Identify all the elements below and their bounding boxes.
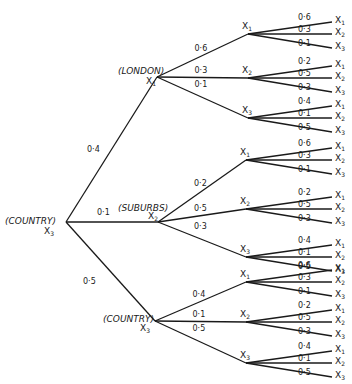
probability-tree-diagram: (COUNTRY)X30·4(LONDON)X10·6X10·6X10·3X20… [0, 0, 352, 384]
node-label-suburbs: (SUBURBS) [118, 203, 168, 213]
prob-label: 0·3 [195, 66, 208, 75]
edge-leaf [246, 351, 332, 363]
root-node-label: (COUNTRY) [5, 216, 56, 226]
prob-label: 0·1 [193, 310, 206, 319]
leaf-state-label: X3 [335, 125, 345, 136]
node-label-london: (LONDON) [118, 66, 164, 76]
leaf-prob-label: 0·1 [298, 109, 311, 118]
node-state-label: X1 [146, 76, 156, 87]
leaf-state-label: X2 [335, 202, 345, 213]
prob-label: 0·5 [83, 277, 96, 286]
node-label-country: (COUNTRY) [103, 314, 154, 324]
leaf-state-label: X1 [335, 263, 345, 274]
node-state-label: X3 [240, 350, 250, 361]
tree-canvas: (COUNTRY)X30·4(LONDON)X10·6X10·6X10·3X20… [0, 0, 352, 384]
edge-leaf [246, 310, 332, 322]
leaf-prob-label: 0·2 [298, 57, 311, 66]
root-state-label: X3 [44, 226, 54, 237]
leaf-prob-label: 0·4 [298, 342, 311, 351]
edge-leaf [248, 118, 332, 132]
node-state-label: X1 [240, 147, 250, 158]
leaf-state-label: X1 [335, 238, 345, 249]
edge-leaf [246, 363, 332, 377]
edge-leaf [246, 197, 332, 209]
edge-root-to-country [66, 222, 155, 321]
node-state-label: X1 [240, 269, 250, 280]
leaf-state-label: X3 [335, 167, 345, 178]
edge-level2 [155, 321, 246, 322]
leaf-state-label: X2 [335, 315, 345, 326]
edge-leaf [246, 322, 332, 336]
edge-leaf [246, 160, 332, 174]
edge-leaf [246, 257, 332, 271]
edge-root-to-london [66, 77, 157, 222]
leaf-prob-label: 0·1 [298, 354, 311, 363]
leaf-state-label: X3 [335, 216, 345, 227]
edge-leaf [248, 78, 332, 92]
prob-label: 0·3 [194, 222, 207, 231]
leaf-state-label: X2 [335, 250, 345, 261]
leaf-state-label: X1 [335, 344, 345, 355]
leaf-state-label: X2 [335, 153, 345, 164]
leaf-state-label: X1 [335, 99, 345, 110]
node-state-label: X2 [240, 309, 250, 320]
leaf-state-label: X1 [335, 190, 345, 201]
leaf-prob-label: 0·5 [298, 123, 311, 132]
node-state-label: X2 [240, 196, 250, 207]
leaf-prob-label: 0·6 [298, 139, 311, 148]
leaf-state-label: X2 [335, 275, 345, 286]
node-state-label: X3 [140, 323, 150, 334]
prob-label: 0·1 [97, 208, 110, 217]
leaf-prob-label: 0·5 [298, 313, 311, 322]
leaf-state-label: X2 [335, 71, 345, 82]
leaf-state-label: X3 [335, 370, 345, 381]
leaf-prob-label: 0·6 [298, 261, 311, 270]
leaf-prob-label: 0·4 [298, 97, 311, 106]
edge-leaf [246, 282, 332, 296]
leaf-prob-label: 0·1 [298, 39, 311, 48]
edge-leaf [246, 245, 332, 257]
leaf-state-label: X1 [335, 303, 345, 314]
leaf-prob-label: 0·2 [298, 188, 311, 197]
leaf-prob-label: 0·5 [298, 200, 311, 209]
node-state-label: X1 [242, 21, 252, 32]
leaf-state-label: X1 [335, 59, 345, 70]
prob-label: 0·4 [87, 145, 100, 154]
prob-label: 0·5 [193, 324, 206, 333]
prob-label: 0·4 [193, 290, 206, 299]
leaf-state-label: X3 [335, 85, 345, 96]
node-state-label: X3 [242, 105, 252, 116]
leaf-prob-label: 0·4 [298, 236, 311, 245]
leaf-prob-label: 0·3 [298, 151, 311, 160]
edge-leaf [246, 270, 332, 282]
leaf-state-label: X1 [335, 141, 345, 152]
leaf-state-label: X3 [335, 329, 345, 340]
leaf-prob-label: 0·2 [298, 301, 311, 310]
leaf-prob-label: 0·3 [298, 273, 311, 282]
leaf-prob-label: 0·3 [298, 214, 311, 223]
prob-label: 0·5 [194, 204, 207, 213]
leaf-state-label: X2 [335, 111, 345, 122]
leaf-state-label: X1 [335, 15, 345, 26]
leaf-prob-label: 0·1 [298, 248, 311, 257]
node-state-label: X3 [240, 244, 250, 255]
leaf-prob-label: 0·1 [298, 287, 311, 296]
edge-leaf [248, 22, 332, 34]
leaf-prob-label: 0·3 [298, 25, 311, 34]
leaf-prob-label: 0·6 [298, 13, 311, 22]
edge-leaf [246, 209, 332, 223]
edge-level2 [157, 77, 248, 78]
leaf-prob-label: 0·3 [298, 327, 311, 336]
prob-label: 0·2 [194, 179, 207, 188]
leaf-state-label: X3 [335, 41, 345, 52]
edge-leaf [248, 106, 332, 118]
leaf-prob-label: 0·5 [298, 368, 311, 377]
edge-leaf [248, 34, 332, 48]
leaf-state-label: X2 [335, 356, 345, 367]
leaf-state-label: X2 [335, 27, 345, 38]
edge-leaf [248, 66, 332, 78]
edge-leaf [246, 148, 332, 160]
leaf-prob-label: 0·3 [298, 83, 311, 92]
node-state-label: X2 [242, 65, 252, 76]
leaf-prob-label: 0·5 [298, 69, 311, 78]
